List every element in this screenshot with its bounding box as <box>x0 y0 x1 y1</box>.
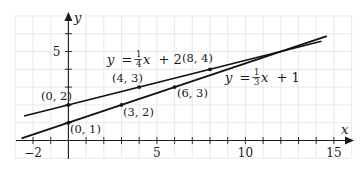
point-dot <box>67 103 71 107</box>
equation-label-line-1: y = <box>106 52 132 67</box>
x-axis: x <box>16 122 354 145</box>
equation-label-line-2: y = <box>224 70 250 85</box>
point-label: (0, 2) <box>41 89 72 103</box>
linear-equations-graph: x y −2510155 (0, 2)(4, 3)(8, 4)(0, 1)(3,… <box>0 0 363 171</box>
y-axis: y <box>64 10 82 159</box>
y-tick-label: 5 <box>53 45 61 59</box>
point-dot <box>208 67 212 71</box>
equation-2-numerator: 1 <box>254 67 259 77</box>
equation-1-rest: x + 2 <box>143 52 182 67</box>
point-dot <box>173 85 177 89</box>
equation-2-denominator: 3 <box>254 77 259 87</box>
point-label: (8, 4) <box>182 51 213 65</box>
y-axis-label: y <box>73 10 82 25</box>
point-label: (3, 2) <box>123 105 154 119</box>
point-dot <box>137 85 141 89</box>
x-axis-label: x <box>341 122 349 137</box>
y-axis-arrow-icon <box>64 12 72 21</box>
x-axis-arrow-icon <box>345 137 354 145</box>
point-label: (4, 3) <box>112 71 143 85</box>
point-label: (6, 3) <box>177 86 208 100</box>
x-tick-label: 10 <box>238 146 253 160</box>
equation-2-rest: x + 1 <box>261 70 300 85</box>
x-tick-label: 15 <box>326 146 341 160</box>
equation-1-numerator: 1 <box>136 49 141 59</box>
equation-1-denominator: 4 <box>136 59 141 69</box>
x-tick-label: 5 <box>153 146 161 160</box>
x-tick-label: −2 <box>24 146 42 160</box>
point-label: (0, 1) <box>70 122 101 136</box>
